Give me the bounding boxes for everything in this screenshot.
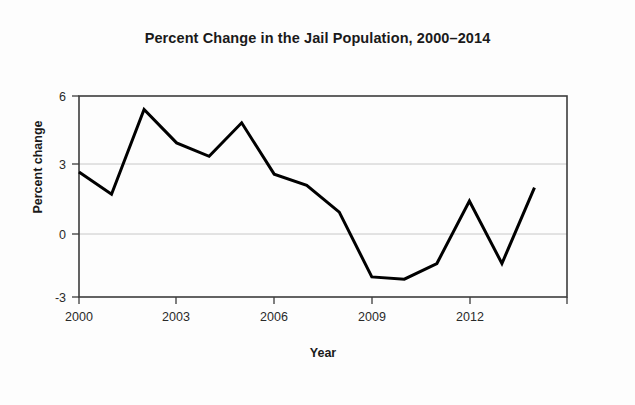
- y-tick-label-3: 3: [59, 158, 66, 172]
- x-tick-label-2006: 2006: [260, 310, 288, 324]
- data-series-percent-change: [79, 109, 534, 279]
- chart-figure: Percent Change in the Jail Population, 2…: [0, 0, 635, 405]
- x-tick-label-2000: 2000: [65, 310, 93, 324]
- y-tick-label-neg3: -3: [55, 291, 66, 305]
- x-tick-label-2012: 2012: [456, 310, 484, 324]
- plot-frame: [79, 96, 567, 297]
- y-axis-title: Percent change: [31, 112, 45, 222]
- x-tick-label-2009: 2009: [358, 310, 386, 324]
- x-axis-title: Year: [79, 346, 567, 360]
- y-tick-label-6: 6: [59, 90, 66, 104]
- x-tick-label-2003: 2003: [162, 310, 190, 324]
- y-tick-label-0: 0: [59, 228, 66, 242]
- chart-plot-area: 6 3 0 -3 2000 2003 2006 2009 2012: [0, 0, 635, 405]
